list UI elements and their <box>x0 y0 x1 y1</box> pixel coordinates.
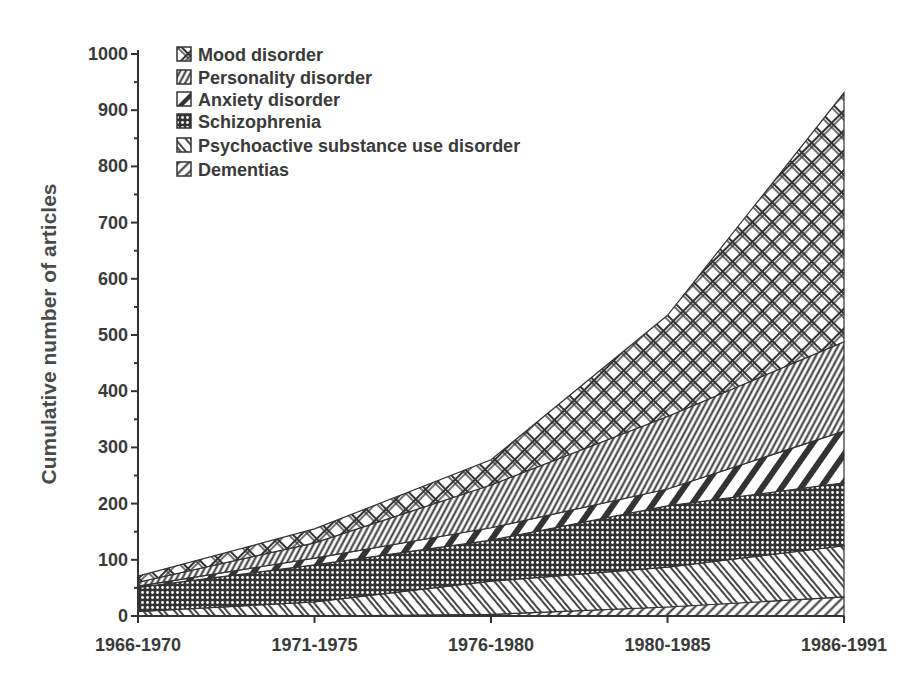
legend-item: Anxiety disorder <box>177 90 340 110</box>
x-tick-label: 1986-1991 <box>801 635 887 655</box>
legend-label: Personality disorder <box>198 68 372 88</box>
y-tick-label: 800 <box>98 156 128 176</box>
y-tick-label: 0 <box>118 606 128 626</box>
y-tick-label: 400 <box>98 381 128 401</box>
legend-swatch-icon <box>177 162 191 176</box>
x-tick-label: 1971-1975 <box>271 635 357 655</box>
y-tick-label: 900 <box>98 100 128 120</box>
legend-item: Schizophrenia <box>177 112 322 132</box>
y-axis-title: Cumulative number of articles <box>37 183 60 484</box>
x-tick-label: 1966-1970 <box>95 635 181 655</box>
y-tick-label: 200 <box>98 494 128 514</box>
y-tick-label: 500 <box>98 325 128 345</box>
y-tick-label: 300 <box>98 437 128 457</box>
y-tick-label: 700 <box>98 213 128 233</box>
legend-swatch-icon <box>177 47 191 61</box>
legend-label: Mood disorder <box>198 45 323 65</box>
legend-label: Schizophrenia <box>198 112 322 132</box>
y-tick-label: 600 <box>98 269 128 289</box>
legend-label: Dementias <box>198 160 289 180</box>
legend-item: Mood disorder <box>177 45 323 65</box>
legend-item: Dementias <box>177 160 289 180</box>
stacked-area-chart: 010020030040050060070080090010001966-197… <box>0 0 903 685</box>
y-tick-label: 100 <box>98 550 128 570</box>
legend: Mood disorderPersonality disorderAnxiety… <box>177 45 520 180</box>
legend-label: Psychoactive substance use disorder <box>198 136 520 156</box>
legend-swatch-icon <box>177 70 191 84</box>
legend-item: Personality disorder <box>177 68 372 88</box>
legend-label: Anxiety disorder <box>198 90 340 110</box>
y-tick-label: 1000 <box>88 44 128 64</box>
legend-item: Psychoactive substance use disorder <box>177 136 520 156</box>
legend-swatch-icon <box>177 114 191 128</box>
x-tick-label: 1980-1985 <box>624 635 710 655</box>
x-tick-label: 1976-1980 <box>448 635 534 655</box>
legend-swatch-icon <box>177 138 191 152</box>
